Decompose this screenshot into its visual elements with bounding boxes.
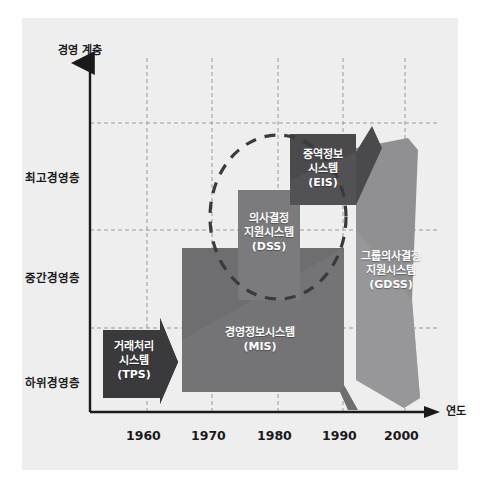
system-label-gdss-line2: 지원시스템 [348,264,434,278]
system-label-eis-line2: 시스템 [290,162,356,176]
system-label-gdss-line1: 그룹의사결정 [348,250,434,264]
system-label-mis-line1: 경영정보시스템 [195,326,325,340]
system-label-dss-line2: 지원시스템 [232,226,306,240]
x-axis-title: 연도 [446,405,466,418]
system-label-dss-abbrev: (DSS) [232,240,306,254]
tier-label-middle-management: 중간경영층 [25,271,80,285]
management-information-systems-evolution-diagram: 경영 계층 연도 최고경영층 중간경영층 하위경영층 1960 1970 198… [0,0,480,490]
x-axis [90,406,440,418]
system-label-tps-line1: 거래처리 [103,340,165,354]
year-label-1960: 1960 [126,428,161,443]
system-label-eis: 중역정보 시스템 (EIS) [290,148,356,190]
year-label-1990: 1990 [322,428,357,443]
year-label-1980: 1980 [257,428,292,443]
system-label-eis-abbrev: (EIS) [290,176,356,190]
system-label-dss-line1: 의사결정 [232,212,306,226]
system-label-tps-line2: 시스템 [103,354,165,368]
y-axis-title: 경영 계층 [58,44,102,57]
tier-label-lower-management: 하위경영층 [25,376,80,390]
system-label-gdss: 그룹의사결정 지원시스템 (GDSS) [348,250,434,292]
system-label-mis: 경영정보시스템 (MIS) [195,326,325,354]
system-label-tps-abbrev: (TPS) [103,368,165,382]
system-label-dss: 의사결정 지원시스템 (DSS) [232,212,306,254]
system-label-mis-abbrev: (MIS) [195,340,325,354]
tier-label-top-management: 최고경영층 [25,171,80,185]
system-label-eis-line1: 중역정보 [290,148,356,162]
year-label-1970: 1970 [191,428,226,443]
system-label-tps: 거래처리 시스템 (TPS) [103,340,165,382]
year-label-2000: 2000 [384,428,419,443]
system-label-gdss-abbrev: (GDSS) [348,278,434,292]
